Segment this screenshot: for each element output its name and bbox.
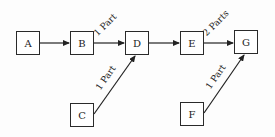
edges-layer: [0, 0, 275, 137]
node-g: G: [234, 30, 258, 54]
node-d-label: D: [133, 38, 141, 49]
node-d: D: [125, 31, 149, 55]
node-f-label: F: [189, 109, 196, 120]
node-b: B: [70, 31, 94, 55]
node-a-label: A: [24, 38, 31, 49]
node-e: E: [180, 31, 204, 55]
flow-diagram: A B D E G C F 1 Part 2 Parts 1 Part 1 Pa…: [0, 0, 275, 137]
node-g-label: G: [242, 37, 250, 48]
node-a: A: [16, 31, 40, 55]
node-f: F: [180, 102, 204, 126]
node-e-label: E: [188, 38, 195, 49]
node-c: C: [70, 103, 94, 127]
node-c-label: C: [78, 110, 86, 121]
node-b-label: B: [78, 38, 85, 49]
